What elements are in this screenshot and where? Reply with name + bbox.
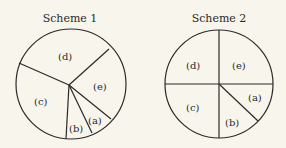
scheme-1-label-b: (b) — [69, 123, 83, 134]
scheme-1-label-a: (a) — [88, 115, 102, 126]
scheme-2-label-b: (b) — [225, 117, 239, 128]
scheme-1-label-d: (d) — [58, 51, 72, 62]
pie-diagrams: (d) (e) (c) (b) (a) (d) (e) (c) (a) (b) — [0, 0, 286, 148]
scheme-2-label-c: (c) — [186, 102, 200, 113]
scheme-1-labels: (d) (e) (c) (b) (a) — [34, 51, 107, 134]
scheme-2-label-d: (d) — [186, 60, 200, 71]
scheme-1-label-e: (e) — [93, 81, 107, 92]
scheme-2-circle — [165, 30, 273, 138]
scheme-2-labels: (d) (e) (c) (a) (b) — [186, 60, 262, 128]
scheme-1-label-c: (c) — [34, 96, 48, 107]
scheme-2-label-a: (a) — [248, 92, 262, 103]
scheme-2-label-e: (e) — [232, 60, 246, 71]
